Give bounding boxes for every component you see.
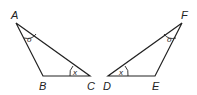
angle-mark-f: o <box>167 35 172 44</box>
vertex-label-d: D <box>103 80 111 92</box>
vertex-label-f: F <box>181 9 189 21</box>
triangle-abc <box>16 23 90 76</box>
vertex-label-b: B <box>39 80 46 92</box>
vertex-label-e: E <box>152 80 160 92</box>
angle-arc-d <box>125 66 128 76</box>
vertex-label-c: C <box>87 80 95 92</box>
vertex-label-a: A <box>10 9 18 21</box>
angle-mark-a: o <box>27 35 32 44</box>
triangles-diagram: A B C o x D E F o x <box>0 0 197 95</box>
